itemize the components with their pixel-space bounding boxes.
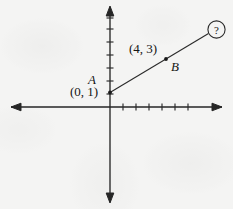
unknown-point-label: ? xyxy=(209,22,224,37)
ray-a-to-unknown xyxy=(110,34,209,93)
coordinate-plot-svg xyxy=(0,0,233,209)
point-b-label: B xyxy=(171,60,179,73)
x-axis-left-arrowhead xyxy=(11,103,21,111)
axes-group xyxy=(11,6,222,203)
y-axis-down-arrowhead xyxy=(106,193,114,203)
x-axis-right-arrowhead xyxy=(212,103,222,111)
point-a-marker xyxy=(108,91,112,95)
point-b-marker xyxy=(164,57,168,61)
y-axis-up-arrowhead xyxy=(106,6,114,16)
point-a-coordinate-label: (0, 1) xyxy=(70,85,98,98)
point-b-coordinate-label: (4, 3) xyxy=(129,42,157,55)
coordinate-plane-figure: A (0, 1) B (4, 3) ? xyxy=(0,0,233,209)
